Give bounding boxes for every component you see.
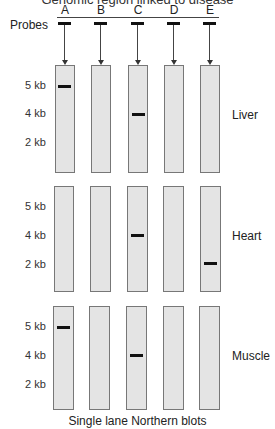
lane-b [89, 306, 110, 410]
lane-b [90, 186, 111, 292]
arrow-d-icon [173, 25, 174, 61]
lane-e [200, 65, 220, 173]
lane-b [91, 65, 111, 173]
lane-c [128, 65, 148, 173]
lane-a [55, 65, 75, 173]
lane-d [164, 65, 184, 173]
probe-label-d: D [164, 3, 184, 17]
marker-2kb: 2 kb [25, 136, 46, 148]
band-c-4kb [131, 234, 144, 237]
marker-4kb: 4 kb [25, 349, 46, 361]
tissue-label-heart: Heart [232, 229, 261, 243]
lane-a [54, 186, 74, 292]
marker-2kb: 2 kb [25, 378, 46, 390]
lane-e [200, 186, 221, 292]
lane-c [126, 306, 147, 410]
marker-5kb: 5 kb [25, 79, 46, 91]
lane-d [163, 186, 184, 292]
arrow-e-icon [209, 25, 210, 61]
arrow-b-icon [100, 25, 101, 61]
marker-2kb: 2 kb [25, 258, 46, 270]
marker-4kb: 4 kb [25, 107, 46, 119]
lane-d [163, 306, 184, 410]
lane-a [53, 306, 74, 410]
tissue-label-muscle: Muscle [232, 349, 270, 363]
lane-e [199, 306, 220, 410]
probe-label-b: B [91, 3, 111, 17]
probe-label-a: A [55, 3, 75, 17]
marker-4kb: 4 kb [25, 229, 46, 241]
arrow-a-icon [64, 25, 65, 61]
arrow-c-icon [137, 25, 138, 61]
marker-5kb: 5 kb [25, 200, 46, 212]
band-a-5kb [58, 85, 71, 88]
lane-c [127, 186, 148, 292]
marker-5kb: 5 kb [25, 320, 46, 332]
band-e-2kb [204, 262, 217, 265]
band-c-4kb [130, 354, 143, 357]
probe-label-c: C [128, 3, 148, 17]
figure-caption: Single lane Northern blots [0, 414, 275, 428]
tissue-label-liver: Liver [232, 108, 258, 122]
probe-label-e: E [200, 3, 220, 17]
genomic-region-line [57, 17, 219, 18]
band-c-4kb [132, 113, 145, 116]
probes-label: Probes [10, 18, 48, 32]
band-a-5kb [57, 326, 70, 329]
